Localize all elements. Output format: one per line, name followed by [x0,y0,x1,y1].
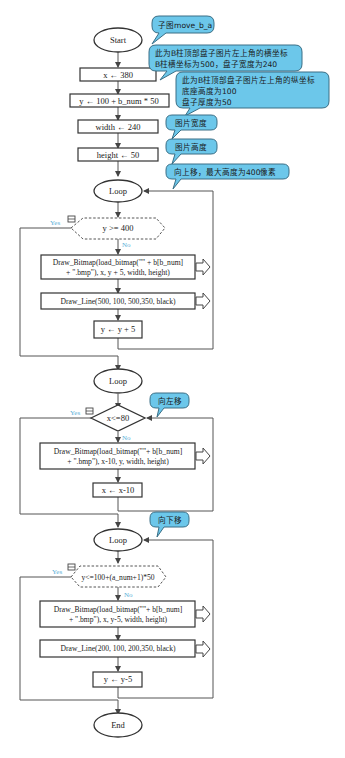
note-subgraph: 子图move_b_a [152,16,214,44]
loop3-draw-bitmap[interactable]: Draw_Bitmap(load_bitmap(""+ b[b_num] + "… [40,601,195,627]
note-left-text: 向左移 [158,396,182,406]
note-x-line1: 此为B柱顶部盘子图片左上角的横坐标 [155,48,288,58]
loop1-condition-label: y >= 400 [103,223,134,233]
note-y-line3: 盘子厚度为50 [182,97,232,107]
loop1-yes-label: Yes [50,219,60,227]
note-y-coordinate: 此为B柱顶部盘子图片左上角的纵坐标 底座高度为100 盘子厚度为50 [176,72,329,116]
loop1-update[interactable]: y ← y + 5 [94,321,142,338]
loop2-no-label: No [122,434,131,442]
loop3-draw-line-label: Draw_Line(200, 100, 200,350, black) [61,644,176,653]
start-label: Start [110,35,127,45]
loop1-label: Loop [109,186,127,196]
loop2-terminal[interactable]: Loop [94,369,142,393]
note-move-down: 向下移 [150,512,189,537]
loop2-condition-label: x<=80 [107,413,129,423]
output-arrow-icon [196,641,210,657]
output-arrow-icon [196,259,210,275]
loop3-update-label: y ← y-5 [104,674,132,684]
loop1-collapse-icon[interactable] [68,216,75,222]
note-width: 图片宽度 [166,115,217,139]
note-move-up: 向上移，最大高度为400像素 [166,164,289,189]
loop1-draw-bitmap[interactable]: Draw_Bitmap(load_bitmap("" + b[b_num] + … [41,255,195,279]
output-arrow-icon [196,448,210,464]
loop1-bitmap-line2: + ".bmp"), x, y + 5, width, height) [66,268,170,277]
note-y-line1: 此为B柱顶部盘子图片左上角的纵坐标 [182,75,315,85]
output-arrow-icon [196,606,210,622]
loop3-terminal[interactable]: Loop [94,529,142,551]
loop2-draw-bitmap[interactable]: Draw_Bitmap(load_bitmap(""+ b[b_num] + "… [40,443,195,469]
loop3-collapse-icon[interactable] [68,564,75,570]
loop3-yes-label: Yes [52,568,62,576]
loop3-condition[interactable]: y<=100+(a_num+1)*50 [71,566,166,587]
width-init-label: width ← 240 [96,122,141,132]
loop3-no-label: No [124,591,133,599]
loop1-update-label: y ← y + 5 [101,324,136,334]
note-width-text: 图片宽度 [175,118,207,128]
loop3-bitmap-line1: Draw_Bitmap(load_bitmap(""+ b[b_num] [54,605,182,614]
start-terminal[interactable]: Start [94,28,142,52]
note-y-line2: 底座高度为100 [182,86,237,96]
loop3-draw-line[interactable]: Draw_Line(200, 100, 200,350, black) [40,640,195,657]
end-terminal[interactable]: End [94,713,142,737]
note-height: 图片高度 [166,139,217,164]
note-move-left: 向左移 [150,393,189,417]
loop3-bitmap-line2: + ".bmp"), x, y-5, width, height) [69,615,168,624]
loop3-update[interactable]: y ← y-5 [93,672,142,687]
loop1-no-label: No [122,241,131,249]
note-height-text: 图片高度 [175,142,207,152]
step-height-init[interactable]: height ← 50 [78,148,158,161]
loop1-condition[interactable]: y >= 400 [71,218,165,239]
loop2-bitmap-line2: + ".bmp"), x-10, y, width, height) [67,457,169,466]
flowchart-canvas: Start x ← 380 y ← 100 + b_num * 50 width… [0,0,345,758]
note-down-text: 向下移 [158,515,182,525]
loop2-collapse-icon[interactable] [86,408,93,414]
step-width-init[interactable]: width ← 240 [78,120,158,133]
loop2-bitmap-line1: Draw_Bitmap(load_bitmap(""+ b[b_num] [54,447,182,456]
loop2-yes-label: Yes [70,409,80,417]
note-subgraph-text: 子图move_b_a [158,21,212,30]
end-label: End [111,720,125,730]
loop1-draw-line-label: Draw_Line(500, 100, 500,350, black) [61,297,176,306]
loop2-update-label: x ← x-10 [102,485,135,495]
y-init-label: y ← 100 + b_num * 50 [79,96,158,106]
x-init-label: x ← 380 [103,70,133,80]
step-x-init[interactable]: x ← 380 [80,68,156,81]
note-up-text: 向上移，最大高度为400像素 [174,167,277,177]
loop1-terminal[interactable]: Loop [94,180,142,202]
height-init-label: height ← 50 [97,150,140,160]
loop2-condition[interactable]: x<=80 [91,405,145,431]
loop2-update[interactable]: x ← x-10 [93,483,142,497]
output-arrow-icon [196,293,210,309]
loop2-label: Loop [109,376,127,386]
note-x-line2: B柱横坐标为500，盘子宽度为240 [155,59,277,69]
loop1-bitmap-line1: Draw_Bitmap(load_bitmap("" + b[b_num] [53,258,183,267]
loop1-draw-line[interactable]: Draw_Line(500, 100, 500,350, black) [41,293,195,309]
loop3-label: Loop [109,535,127,545]
step-y-init[interactable]: y ← 100 + b_num * 50 [70,94,169,107]
loop3-condition-label: y<=100+(a_num+1)*50 [81,573,154,582]
